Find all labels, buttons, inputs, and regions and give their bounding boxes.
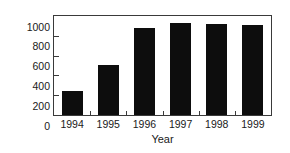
y-axis-tick-mark [54,75,59,76]
y-axis-tick-mark [54,36,59,37]
y-axis-tick-label: 200 [24,101,50,112]
bar-chart-figure: Number 10008006004002000 199419951996199… [0,0,290,153]
y-axis-tick-label: 1000 [24,22,50,33]
y-axis-tick-labels: 10008006004002000 [24,9,50,124]
bar [134,28,155,115]
x-axis-tick-mark [90,111,91,115]
x-axis-tick-label: 1996 [126,118,162,131]
x-axis-tick-mark [199,111,200,115]
plot-area [54,16,271,115]
y-axis-tick-label: 800 [24,41,50,52]
x-axis-tick-label: 1998 [199,118,235,131]
x-axis-tick-label: 1997 [163,118,199,131]
bar [242,25,263,115]
bar [206,24,227,115]
x-axis-tick-labels: 199419951996199719981999 [53,118,272,132]
x-axis-tick-mark [126,111,127,115]
bar [62,91,83,115]
bar [170,23,191,115]
y-axis-tick-mark [54,56,59,57]
y-axis-tick-mark [54,95,59,96]
x-axis-tick-label: 1999 [235,118,271,131]
y-axis-tick-label: 0 [24,121,50,132]
y-axis-tick-label: 600 [24,61,50,72]
plot-frame [53,15,272,116]
x-axis-tick-mark [235,111,236,115]
bar [98,65,119,115]
x-axis-tick-label: 1994 [54,118,90,131]
x-axis-title: Year [53,133,272,146]
y-axis-tick-label: 400 [24,81,50,92]
x-axis-tick-label: 1995 [90,118,126,131]
x-axis-tick-mark [163,111,164,115]
